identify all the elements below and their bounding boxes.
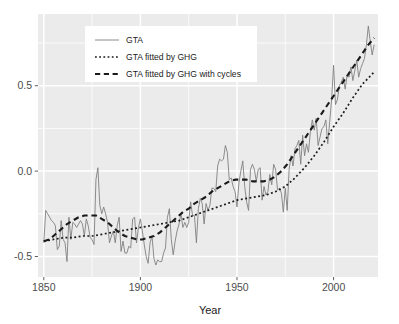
chart-legend: GTAGTA fitted by GHGGTA fitted by GHG wi… [85,26,257,82]
legend-label: GTA [126,35,143,45]
chart-figure: 1850190019502000 -0.50.00.5 GTAGTA fitte… [0,0,399,324]
y-tick-label: -0.5 [14,250,32,262]
x-tick-label: 1950 [225,281,249,293]
x-axis-title: Year [199,304,222,316]
y-tick-label: 0.5 [17,79,32,91]
y-tick-label: 0.0 [17,165,32,177]
gta-line-chart: 1850190019502000 -0.50.00.5 GTAGTA fitte… [0,0,399,324]
x-tick-label: 1850 [32,281,56,293]
legend-label: GTA fitted by GHG [126,52,197,62]
legend-label: GTA fitted by GHG with cycles [126,69,241,79]
x-tick-label: 2000 [322,281,346,293]
x-tick-label: 1900 [129,281,153,293]
